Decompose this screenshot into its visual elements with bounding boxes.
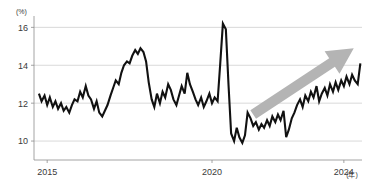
gridlines [34, 27, 362, 141]
y-axis-unit-label: (%) [16, 8, 27, 16]
x-axis-unit-label: (年) [346, 170, 358, 179]
series-line-1 [39, 24, 360, 143]
y-tick-labels: 10121416 [18, 23, 34, 147]
y-tick-label-16: 16 [18, 23, 28, 33]
axes [34, 16, 362, 160]
x-tickmarks [47, 160, 344, 163]
x-tick-label-2020: 2020 [202, 167, 222, 177]
line-chart: 10121416 201520202024 (%) (年) [0, 0, 369, 187]
x-tick-label-2015: 2015 [37, 167, 57, 177]
chart-container: 10121416 201520202024 (%) (年) [0, 0, 369, 187]
y-tick-label-14: 14 [18, 61, 28, 71]
x-tick-labels: 201520202024 [37, 167, 354, 177]
y-tick-label-12: 12 [18, 99, 28, 109]
y-tick-label-10: 10 [18, 136, 28, 146]
